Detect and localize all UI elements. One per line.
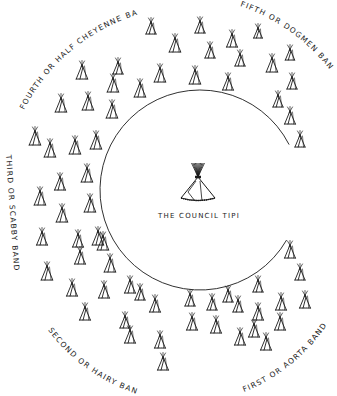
tipi-icon xyxy=(273,91,283,108)
tipi-icon xyxy=(158,353,169,371)
tipi-icon xyxy=(104,254,116,273)
tipi-icon xyxy=(253,303,264,321)
tipi-icon xyxy=(154,64,166,83)
tipi-icon xyxy=(169,34,181,53)
tipi-icon xyxy=(113,58,123,75)
tipi-icon xyxy=(67,279,78,297)
tipi-icon xyxy=(135,284,145,301)
band-tipis xyxy=(29,17,310,371)
council-tipi xyxy=(181,163,215,201)
tipi-icon xyxy=(295,264,305,281)
tipi-icon xyxy=(56,204,68,223)
tipi-icon xyxy=(37,228,48,246)
tipi-icon xyxy=(82,92,94,111)
tipi-icon xyxy=(223,73,234,91)
tipi-icon xyxy=(233,296,243,313)
tipi-icon xyxy=(120,312,130,329)
tipi-icon xyxy=(253,276,263,293)
tipi-icon xyxy=(99,281,110,299)
tipi-icon xyxy=(134,79,146,98)
tipi-icon xyxy=(285,45,294,61)
tipi-icon xyxy=(84,194,96,213)
tipi-icon xyxy=(287,73,297,90)
tipi-icon xyxy=(187,313,198,331)
tipi-icon xyxy=(55,173,66,191)
tipi-icon xyxy=(295,131,305,148)
tipi-icon xyxy=(205,42,215,59)
tipi-icon xyxy=(185,290,195,307)
tipi-icon xyxy=(90,131,102,150)
tipi-icon xyxy=(106,100,118,119)
tipi-icon xyxy=(249,320,260,338)
tipi-icon xyxy=(155,331,166,349)
tipi-icon xyxy=(107,74,119,93)
tipi-icon xyxy=(125,276,136,294)
tipi-icon xyxy=(69,136,81,155)
council-tipi-label: THE COUNCIL TIPI xyxy=(157,212,240,220)
tipi-icon xyxy=(189,66,201,85)
tipi-icon xyxy=(285,107,296,125)
tipi-icon xyxy=(276,293,287,311)
band-label-fourth: FOURTH OR HALF CHEYENNE BAND xyxy=(0,0,139,111)
tipi-icon xyxy=(73,230,84,248)
tipi-icon xyxy=(235,328,246,346)
tipi-icon xyxy=(80,303,91,321)
tipi-icon xyxy=(211,316,222,334)
tipi-icon xyxy=(75,247,86,265)
tipi-icon xyxy=(92,227,104,246)
tipi-icon xyxy=(76,61,88,80)
tipi-icon xyxy=(285,241,296,259)
tipi-icon xyxy=(195,17,205,34)
tipi-icon xyxy=(275,313,286,331)
band-label-second: SECOND OR HAIRY BAND xyxy=(0,0,139,396)
tipi-icon xyxy=(261,333,272,351)
tipi-icon xyxy=(146,18,156,35)
tipi-icon xyxy=(227,30,238,48)
tipi-icon xyxy=(254,24,263,39)
tipi-icon xyxy=(300,291,311,309)
tipi-icon xyxy=(150,295,161,313)
tipi-icon xyxy=(34,187,46,206)
camp-circle-diagram: FOURTH OR HALF CHEYENNE BAND FIFTH OR DO… xyxy=(0,0,337,396)
tipi-icon xyxy=(44,139,56,158)
tipi-icon xyxy=(223,286,233,303)
camp-circle-arc xyxy=(100,90,289,290)
tipi-icon xyxy=(55,94,67,113)
band-label-third: THIRD OR SCABBY BAND xyxy=(4,154,21,272)
tipi-icon xyxy=(41,262,53,281)
band-label-first: FIRST OR AORTA BAND xyxy=(241,320,329,393)
tipi-icon xyxy=(81,164,93,183)
inner-circle-arc xyxy=(100,90,289,290)
tipi-icon xyxy=(235,50,245,67)
tipi-icon xyxy=(29,127,41,146)
tipi-icon xyxy=(207,294,217,311)
tipi-icon xyxy=(266,54,278,73)
council-tipi-icon xyxy=(181,163,215,201)
